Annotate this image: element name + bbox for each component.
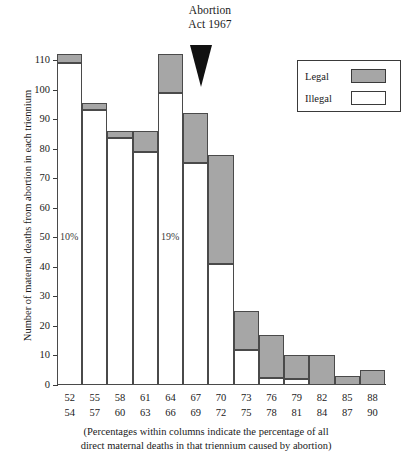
x-axis-tick-labels: 5254555758606163646667697072737576787981… xyxy=(57,390,385,424)
x-tick-year-end: 87 xyxy=(334,405,360,420)
bar-column xyxy=(234,311,259,385)
x-axis-tick-label: 7072 xyxy=(208,390,234,420)
bar-segment-legal xyxy=(133,131,158,152)
x-tick-year-end: 60 xyxy=(107,405,133,420)
bar-segment-illegal xyxy=(183,163,208,385)
x-tick-year-start: 61 xyxy=(132,390,158,405)
bar-segment-legal xyxy=(234,311,259,349)
y-axis-tick-label: 90 xyxy=(26,114,50,124)
x-tick-year-start: 76 xyxy=(258,390,284,405)
column-percentage-label: 10% xyxy=(60,231,78,242)
x-tick-year-start: 73 xyxy=(233,390,259,405)
y-axis-tick-label: 60 xyxy=(26,203,50,213)
x-tick-year-end: 81 xyxy=(284,405,310,420)
bar-segment-illegal xyxy=(57,63,82,385)
bar-segment-illegal xyxy=(107,138,132,385)
x-axis-tick-label: 8587 xyxy=(334,390,360,420)
x-tick-year-end: 84 xyxy=(309,405,335,420)
y-axis-tick-label: 100 xyxy=(26,85,50,95)
bar-segment-illegal xyxy=(208,264,233,385)
bar-segment-legal xyxy=(360,370,385,385)
bar-column xyxy=(335,376,360,385)
y-axis-tick-label: 30 xyxy=(26,291,50,301)
x-axis-tick-label: 6163 xyxy=(132,390,158,420)
bar-segment-legal xyxy=(309,355,334,385)
caption-line-1: (Percentages within columns indicate the… xyxy=(20,425,392,439)
bar-segment-legal xyxy=(335,376,360,385)
plot-area: 010203040506070809010011010%19% xyxy=(57,60,385,385)
bar-segment-legal xyxy=(259,335,284,378)
bar-column xyxy=(284,355,309,385)
y-axis-tick-mark xyxy=(53,385,57,386)
bar-column xyxy=(360,370,385,385)
x-tick-year-end: 72 xyxy=(208,405,234,420)
bar-column xyxy=(259,335,284,385)
bar-segment-illegal xyxy=(284,379,309,385)
x-tick-year-start: 88 xyxy=(359,390,385,405)
bar-column xyxy=(158,54,183,385)
x-tick-year-end: 66 xyxy=(158,405,184,420)
x-tick-year-start: 79 xyxy=(284,390,310,405)
x-tick-year-end: 90 xyxy=(359,405,385,420)
caption-line-2: direct maternal deaths in that triennium… xyxy=(20,439,392,453)
bar-segment-legal xyxy=(208,155,233,264)
bar-column xyxy=(57,54,82,385)
y-axis-tick-label: 110 xyxy=(26,55,50,65)
y-axis-tick-label: 10 xyxy=(26,350,50,360)
bar-segment-legal xyxy=(57,54,82,63)
x-axis-tick-label: 7375 xyxy=(233,390,259,420)
x-axis-tick-label: 6769 xyxy=(183,390,209,420)
y-axis-tick-label: 0 xyxy=(26,380,50,390)
y-axis-tick-label: 70 xyxy=(26,173,50,183)
bar-segment-illegal xyxy=(133,152,158,385)
bar-segment-legal xyxy=(158,54,183,92)
x-tick-year-end: 78 xyxy=(258,405,284,420)
x-tick-year-start: 64 xyxy=(158,390,184,405)
x-axis-tick-label: 8284 xyxy=(309,390,335,420)
chart-caption: (Percentages within columns indicate the… xyxy=(20,425,392,453)
bar-segment-illegal xyxy=(234,350,259,385)
x-axis-tick-label: 5254 xyxy=(57,390,83,420)
x-tick-year-start: 67 xyxy=(183,390,209,405)
bar-column xyxy=(82,103,107,385)
y-axis-tick-label: 80 xyxy=(26,144,50,154)
bar-column xyxy=(208,155,233,385)
y-axis-tick-label: 50 xyxy=(26,232,50,242)
x-axis-tick-label: 6466 xyxy=(158,390,184,420)
x-axis-tick-label: 8890 xyxy=(359,390,385,420)
bar-segment-legal xyxy=(284,355,309,379)
column-percentage-label: 19% xyxy=(161,231,179,242)
x-axis-tick-label: 5557 xyxy=(82,390,108,420)
annotation-abortion-act: Abortion Act 1967 xyxy=(150,4,270,31)
bar-column xyxy=(133,131,158,385)
x-axis-tick-label: 5860 xyxy=(107,390,133,420)
annotation-line-1: Abortion xyxy=(150,4,270,18)
x-tick-year-start: 58 xyxy=(107,390,133,405)
x-tick-year-start: 85 xyxy=(334,390,360,405)
bar-segment-legal xyxy=(82,103,107,110)
annotation-line-2: Act 1967 xyxy=(150,18,270,32)
x-tick-year-end: 54 xyxy=(57,405,83,420)
bar-segment-illegal xyxy=(259,378,284,385)
x-tick-year-start: 82 xyxy=(309,390,335,405)
x-tick-year-start: 70 xyxy=(208,390,234,405)
x-axis-tick-label: 7981 xyxy=(284,390,310,420)
bar-segment-legal xyxy=(183,113,208,163)
x-tick-year-end: 57 xyxy=(82,405,108,420)
bar-segment-illegal xyxy=(82,110,107,385)
x-tick-year-end: 63 xyxy=(132,405,158,420)
y-axis-tick-label: 20 xyxy=(26,321,50,331)
y-axis-tick-label: 40 xyxy=(26,262,50,272)
bar-segment-legal xyxy=(107,131,132,138)
bar-column xyxy=(107,131,132,385)
x-tick-year-start: 55 xyxy=(82,390,108,405)
x-axis-tick-label: 7678 xyxy=(258,390,284,420)
x-tick-year-end: 75 xyxy=(233,405,259,420)
bar-column xyxy=(309,355,334,385)
bar-column xyxy=(183,113,208,385)
x-tick-year-end: 69 xyxy=(183,405,209,420)
x-tick-year-start: 52 xyxy=(57,390,83,405)
